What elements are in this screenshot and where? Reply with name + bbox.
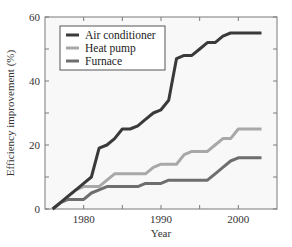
legend-label: Furnace <box>85 55 122 67</box>
x-tick-label: 2000 <box>227 213 250 225</box>
y-tick-label: 40 <box>29 75 41 87</box>
x-axis-label: Year <box>151 227 172 239</box>
y-tick-label: 20 <box>29 139 41 151</box>
x-tick-label: 1990 <box>150 213 173 225</box>
line-chart: 0204060 198019902000 Air conditionerHeat… <box>0 0 292 247</box>
y-axis-label: Efficiency improvement (%) <box>4 50 17 177</box>
y-tick-label: 60 <box>29 11 41 23</box>
y-tick-label: 0 <box>35 203 41 215</box>
legend-label: Air conditioner <box>85 29 156 41</box>
x-tick-label: 1980 <box>73 213 96 225</box>
legend-label: Heat pump <box>85 42 136 55</box>
legend: Air conditionerHeat pumpFurnace <box>60 26 165 70</box>
